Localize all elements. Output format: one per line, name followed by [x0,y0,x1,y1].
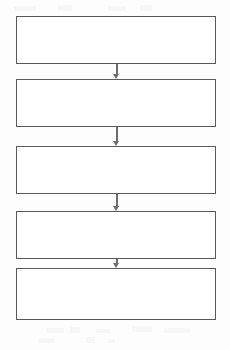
flowchart-arrow-1-shaft [116,64,118,74]
flowchart-arrow-1 [111,64,123,79]
flowchart-arrow-4-shaft [116,259,118,263]
flowchart-arrow-3-shaft [116,194,118,206]
flowchart-node-1[interactable] [16,16,216,64]
flowchart-node-3[interactable] [16,146,216,194]
flowchart-arrow-4 [111,259,123,268]
flowchart-node-5[interactable] [16,268,216,320]
flowchart-arrow-3 [111,194,123,211]
flowchart-diagram [0,0,230,350]
flowchart-node-4[interactable] [16,211,216,259]
flowchart-arrow-2-shaft [116,127,118,141]
flowchart-arrow-2 [111,127,123,146]
flowchart-node-2[interactable] [16,79,216,127]
